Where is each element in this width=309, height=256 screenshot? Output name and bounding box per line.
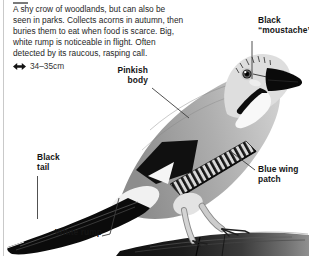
annotation-label-pinkish-body: Pinkish body	[105, 65, 148, 85]
annotation-label-blue-wing-patch: Blue wing patch	[258, 164, 306, 184]
annotation-label-black-tail: Black tail	[37, 152, 69, 172]
annotation-label-white-rump: White rump	[55, 227, 125, 237]
field-guide-page: A shy crow of woodlands, but can also be…	[0, 0, 309, 256]
bird-beak	[266, 68, 302, 91]
bird-illustration	[0, 0, 309, 256]
branch	[116, 232, 309, 256]
annotation-label-moustache: Black “moustache”	[258, 15, 309, 35]
